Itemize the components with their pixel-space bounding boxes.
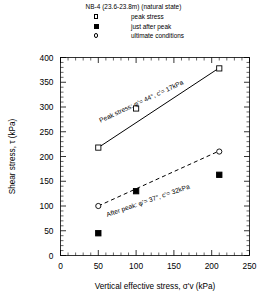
y-tick-label: 300 [40, 102, 54, 112]
data-point-just-after-peak [133, 188, 138, 193]
y-tick-label: 150 [40, 176, 54, 186]
x-tick-label: 0 [58, 261, 63, 271]
annotation-1: After peak: φ'= 37°, c'= 32kPa [105, 183, 191, 219]
y-tick-label: 50 [44, 226, 54, 236]
data-point-peak-stress [96, 145, 101, 150]
data-point-just-after-peak [96, 231, 101, 236]
axis-frame [61, 58, 250, 256]
data-point-ultimate-conditions [96, 203, 101, 208]
data-point-peak-stress [217, 66, 222, 71]
y-tick-label: 100 [40, 201, 54, 211]
y-tick-label: 400 [40, 53, 54, 63]
y-tick-label: 250 [40, 127, 54, 137]
data-point-ultimate-conditions [217, 149, 222, 154]
y-tick-label: 350 [40, 77, 54, 87]
data-point-just-after-peak [217, 172, 222, 177]
plot-area: 050100150200250050100150200250300350400V… [0, 0, 267, 297]
x-axis-title: Vertical effective stress, σ'v (kPa) [95, 282, 216, 291]
x-tick-label: 100 [129, 261, 143, 271]
annotation-0: Peak stress: φ'= 44°, c'= 17kPa [98, 78, 185, 124]
x-tick-label: 250 [243, 261, 257, 271]
x-tick-label: 150 [167, 261, 181, 271]
x-tick-label: 200 [205, 261, 219, 271]
x-tick-label: 50 [94, 261, 104, 271]
chart-figure: NB-4 (23.6-23.8m) (natural state) peak s… [0, 0, 267, 297]
y-tick-label: 200 [40, 152, 54, 162]
y-axis-title: Shear stress, τ (kPa) [8, 118, 17, 194]
y-tick-label: 0 [49, 251, 54, 261]
fit-line-peak-stress [98, 67, 220, 147]
